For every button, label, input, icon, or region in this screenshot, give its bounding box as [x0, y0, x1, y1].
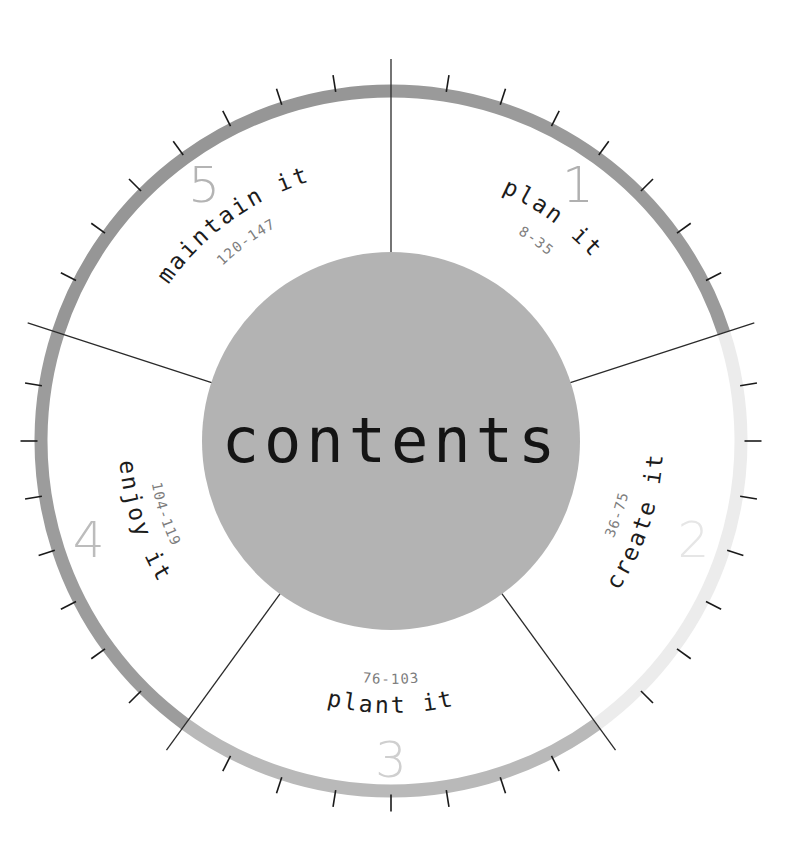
tick-mark	[61, 273, 76, 281]
tick-mark	[277, 777, 282, 793]
tick-mark	[129, 179, 141, 191]
tick-mark	[91, 649, 105, 659]
segment-label-3: plant it	[325, 685, 457, 718]
tick-mark	[677, 223, 691, 233]
tick-mark	[173, 141, 183, 155]
tick-mark	[551, 756, 559, 771]
tick-mark	[641, 179, 653, 191]
tick-mark	[223, 756, 231, 771]
tick-mark	[599, 141, 609, 155]
segment-label-5: maintain it	[151, 161, 312, 288]
segment-pages-1: 8-35	[516, 223, 557, 259]
tick-mark	[500, 777, 505, 793]
segment-number-2: 2	[678, 511, 710, 569]
segment-number-3: 3	[375, 731, 407, 789]
segment-divider	[501, 592, 616, 750]
wheel-svg: contents plan it8-35create it36-75plant …	[0, 0, 794, 866]
tick-mark	[61, 601, 76, 609]
tick-mark	[91, 223, 105, 233]
tick-mark	[641, 691, 653, 703]
tick-mark	[727, 550, 743, 555]
segment-number-4: 4	[73, 511, 105, 569]
segment-number-5: 5	[188, 156, 220, 214]
tick-mark	[277, 89, 282, 105]
contents-wheel-diagram: contents plan it8-35create it36-75plant …	[0, 0, 794, 866]
tick-mark	[677, 649, 691, 659]
tick-mark	[706, 273, 721, 281]
segment-divider	[166, 592, 281, 750]
tick-mark	[551, 111, 559, 126]
tick-mark	[129, 691, 141, 703]
tick-mark	[500, 89, 505, 105]
tick-mark	[706, 601, 721, 609]
tick-mark	[223, 111, 231, 126]
page-title: contents	[222, 404, 561, 477]
segment-pages-3: 76-103	[362, 669, 420, 687]
segment-number-1: 1	[562, 156, 594, 214]
tick-mark	[39, 550, 55, 555]
